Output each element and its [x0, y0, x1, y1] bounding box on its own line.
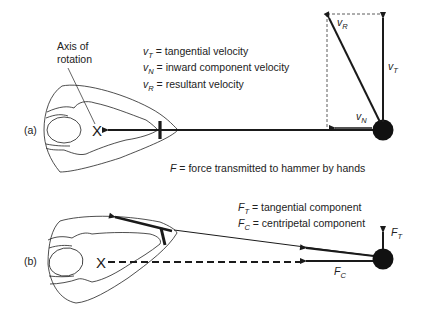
- panel-b-label: (b): [24, 255, 37, 267]
- hammer-ball-b: [373, 249, 394, 270]
- force-legend: FT = tangential component FC = centripet…: [238, 201, 365, 232]
- FT-label: FT: [391, 226, 403, 241]
- FC-label: FC: [334, 265, 346, 280]
- head-outline: [47, 117, 81, 143]
- axis-label-line2: rotation: [57, 53, 92, 65]
- axis-leader-line: [68, 68, 95, 124]
- vN-label: vN: [356, 110, 367, 125]
- panel-a: (a) Axis of rotation X vR vT vN vT = tan…: [24, 14, 399, 172]
- hammer-throw-diagram: (a) Axis of rotation X vR vT vN vT = tan…: [0, 0, 426, 323]
- legend-vT: vT = tangential velocity: [143, 45, 249, 60]
- legend-vN: vN = inward component velocity: [143, 61, 290, 76]
- legend-vR: vR = resultant velocity: [143, 78, 245, 93]
- vR-arrow: [329, 18, 380, 122]
- axis-marker-b: X: [96, 254, 106, 271]
- head-outline-b: [47, 245, 85, 278]
- panel-a-label: (a): [24, 124, 37, 136]
- panel-b: (b) X FT FC FT = tangential component FC…: [24, 201, 403, 303]
- legend-FT: FT = tangential component: [238, 201, 361, 216]
- thrower-body-outline-a: [44, 85, 178, 172]
- axis-marker-a: X: [92, 122, 102, 139]
- F-arrow-b: [306, 248, 374, 256]
- vT-label: vT: [388, 60, 399, 75]
- hammer-ball-a: [373, 120, 394, 141]
- velocity-legend: vT = tangential velocity vN = inward com…: [143, 45, 290, 93]
- hands-grip-b: [161, 228, 165, 245]
- legend-FC: FC = centripetal component: [238, 217, 365, 232]
- force-caption: F = force transmitted to hammer by hands: [170, 162, 365, 174]
- axis-label-line1: Axis of: [57, 40, 89, 52]
- vR-label: vR: [337, 16, 348, 31]
- thrower-body-outline-b: [47, 216, 177, 303]
